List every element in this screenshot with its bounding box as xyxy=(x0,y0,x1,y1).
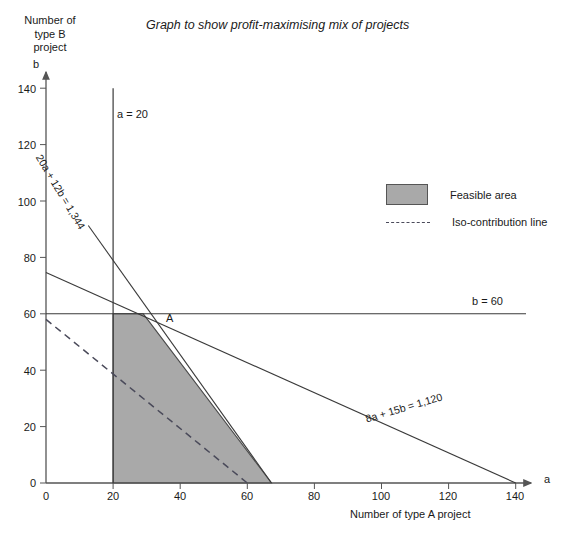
dashed-line-swatch-icon xyxy=(386,222,430,223)
chart-container: Graph to show profit-maximising mix of p… xyxy=(0,0,568,534)
constraint-label-a20: a = 20 xyxy=(117,108,148,120)
legend-label-feasible-area: Feasible area xyxy=(450,189,517,201)
feasible-area-polygon xyxy=(113,314,271,483)
plot-area xyxy=(0,0,568,534)
legend-label-iso-contribution: Iso-contribution line xyxy=(452,216,547,228)
legend-item-iso-contribution: Iso-contribution line xyxy=(386,216,547,228)
legend-item-feasible-area: Feasible area xyxy=(386,184,517,205)
feasible-area-swatch-icon xyxy=(386,184,428,205)
vertex-label-a: A xyxy=(166,312,173,324)
constraint-label-b60: b = 60 xyxy=(472,295,503,307)
